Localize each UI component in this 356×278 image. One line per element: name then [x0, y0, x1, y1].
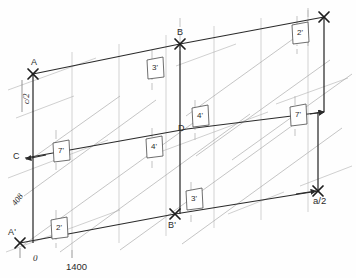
tag-label-3-bottom: 3'	[191, 195, 197, 203]
point-label-D: D	[178, 124, 185, 133]
tag-label-4-center: 4'	[151, 143, 157, 151]
point-label-C: C	[13, 152, 20, 161]
tag-label-4-mid: 4'	[197, 112, 203, 120]
station-marker-A-prime	[15, 238, 25, 248]
page-caption	[0, 267, 356, 278]
drawing-canvas: A B C D A' B' c/2 408 1400 a/2 0 3' 2' 4…	[0, 0, 356, 278]
tag-label-7-right: 7'	[295, 111, 301, 119]
point-label-A-prime: A'	[8, 228, 16, 237]
tag-label-3-top: 3'	[152, 64, 158, 72]
tag-label-7-left: 7'	[58, 147, 64, 155]
point-label-B-prime: B'	[168, 221, 176, 230]
tag-label-2-topright: 2'	[297, 29, 303, 37]
dimension-label-a-over-2: a/2	[313, 196, 326, 206]
origin-marker-label: 0	[33, 254, 38, 263]
direction-arrows	[26, 112, 324, 194]
point-label-A: A	[31, 58, 37, 67]
primary-outline	[20, 17, 324, 243]
diagram-svg	[0, 0, 356, 278]
tag-label-2-bottom: 2'	[56, 224, 62, 232]
vertical-grid-lines	[72, 10, 308, 250]
point-label-B: B	[177, 28, 183, 37]
dimension-label-c-over-2: c/2	[22, 94, 31, 104]
